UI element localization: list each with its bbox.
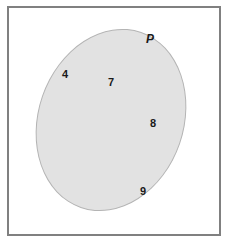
set-diagram: P 4 7 8 9 (0, 0, 231, 245)
element-4: 4 (58, 69, 72, 80)
set-p-label: P (146, 33, 154, 45)
element-8: 8 (146, 118, 160, 129)
element-7: 7 (104, 77, 118, 88)
element-9: 9 (136, 186, 150, 197)
